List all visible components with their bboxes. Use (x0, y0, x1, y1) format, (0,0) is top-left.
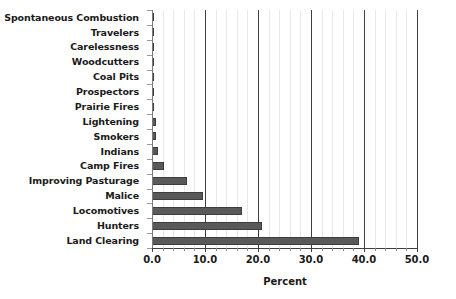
bar (152, 237, 359, 245)
bar-row (152, 189, 417, 204)
bar-row (152, 40, 417, 55)
x-tick-minor (173, 248, 174, 251)
y-tick (147, 189, 152, 190)
category-label: Hunters (0, 218, 145, 233)
x-tick-label: 0.0 (143, 254, 161, 265)
bar-row (152, 114, 417, 129)
x-tick-major (205, 248, 206, 252)
x-tick-major (258, 248, 259, 252)
bar (152, 192, 203, 200)
bar (152, 162, 164, 170)
bar-row (152, 203, 417, 218)
x-tick-label: 10.0 (193, 254, 218, 265)
x-tick-major (364, 248, 365, 252)
bar-row (152, 218, 417, 233)
y-tick (147, 203, 152, 204)
x-tick-major (152, 248, 153, 252)
x-axis-title: Percent (152, 276, 418, 287)
bar-row (152, 10, 417, 25)
y-tick (147, 248, 152, 249)
x-tick-label: 30.0 (299, 254, 324, 265)
x-tick-major (417, 248, 418, 252)
category-label: Prairie Fires (0, 99, 145, 114)
x-tick-minor (353, 248, 354, 251)
x-tick-minor (226, 248, 227, 251)
x-tick-minor (375, 248, 376, 251)
bar-row (152, 174, 417, 189)
category-label: Carelessness (0, 40, 145, 55)
y-tick (147, 55, 152, 56)
y-tick (147, 40, 152, 41)
bar-row (152, 159, 417, 174)
category-label: Indians (0, 144, 145, 159)
y-tick (147, 129, 152, 130)
bar-row (152, 144, 417, 159)
x-tick-minor (237, 248, 238, 251)
category-label: Camp Fires (0, 159, 145, 174)
category-label: Travelers (0, 25, 145, 40)
category-label: Land Clearing (0, 233, 145, 248)
bar (152, 222, 262, 230)
x-tick-minor (290, 248, 291, 251)
x-tick-minor (406, 248, 407, 251)
category-label: Locomotives (0, 203, 145, 218)
x-tick-minor (194, 248, 195, 251)
category-label: Smokers (0, 129, 145, 144)
x-tick-minor (322, 248, 323, 251)
x-tick-minor (385, 248, 386, 251)
gridline-major (417, 10, 418, 248)
y-tick (147, 159, 152, 160)
x-tick-minor (184, 248, 185, 251)
y-tick (147, 10, 152, 11)
category-label: Spontaneous Combustion (0, 10, 145, 25)
bar (152, 177, 187, 185)
bar-chart: Spontaneous CombustionTravelersCarelessn… (0, 0, 456, 299)
x-tick-label: 40.0 (352, 254, 377, 265)
category-label: Coal Pits (0, 70, 145, 85)
plot-area (152, 10, 417, 248)
x-axis-line (152, 248, 418, 249)
x-tick-minor (300, 248, 301, 251)
x-tick-label: 20.0 (246, 254, 271, 265)
category-label: Woodcutters (0, 55, 145, 70)
y-tick (147, 70, 152, 71)
bar-series (152, 10, 417, 248)
y-tick (147, 114, 152, 115)
bar-row (152, 25, 417, 40)
bar-row (152, 55, 417, 70)
bar-row (152, 233, 417, 248)
x-tick-minor (269, 248, 270, 251)
x-tick-minor (343, 248, 344, 251)
x-tick-minor (332, 248, 333, 251)
y-tick (147, 174, 152, 175)
bar-row (152, 99, 417, 114)
category-label: Prospectors (0, 84, 145, 99)
category-axis-labels: Spontaneous CombustionTravelersCarelessn… (0, 10, 145, 248)
x-tick-minor (396, 248, 397, 251)
y-tick (147, 84, 152, 85)
x-tick-minor (163, 248, 164, 251)
y-axis-line (152, 10, 153, 249)
x-tick-major (311, 248, 312, 252)
bar (152, 207, 242, 215)
y-tick (147, 144, 152, 145)
category-label: Lightening (0, 114, 145, 129)
y-tick (147, 25, 152, 26)
y-tick (147, 99, 152, 100)
x-tick-minor (216, 248, 217, 251)
bar-row (152, 129, 417, 144)
x-tick-minor (247, 248, 248, 251)
y-tick (147, 233, 152, 234)
x-tick-minor (279, 248, 280, 251)
bar-row (152, 84, 417, 99)
category-label: Improving Pasturage (0, 174, 145, 189)
category-label: Malice (0, 189, 145, 204)
y-tick (147, 218, 152, 219)
x-tick-label: 50.0 (405, 254, 430, 265)
bar-row (152, 70, 417, 85)
